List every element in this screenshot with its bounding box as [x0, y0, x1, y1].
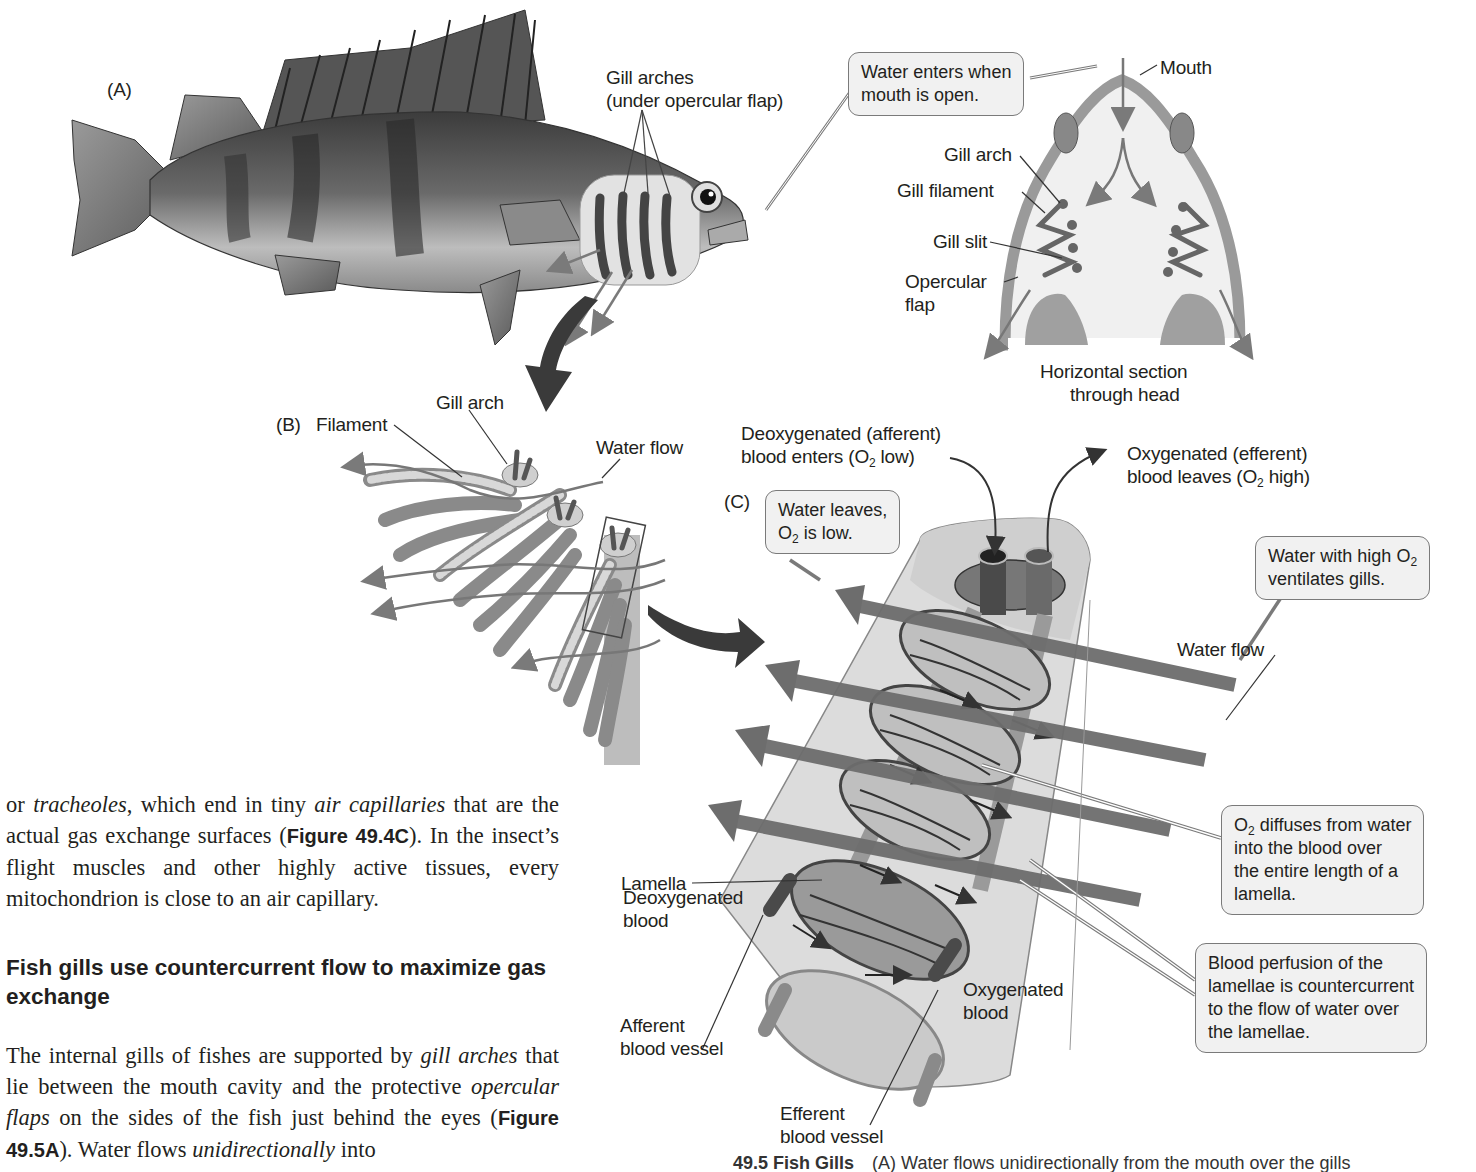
- water-high-line1-sub: 2: [1410, 555, 1417, 569]
- water-leaves-line1: Water leaves,: [778, 499, 887, 522]
- horizontal-section-label: Horizontal section through head: [1040, 360, 1187, 406]
- diffuse-line4: lamella.: [1234, 883, 1411, 906]
- oxy-line2-pre: blood leaves (O: [1127, 466, 1257, 487]
- paragraph-tracheoles: or tracheoles, which end in tiny air cap…: [6, 789, 559, 914]
- gill-arches-label-line2: (under opercular flap): [606, 89, 783, 112]
- perfusion-line2: lamellae is countercurrent: [1208, 975, 1414, 998]
- horizontal-section-line1: Horizontal section: [1040, 360, 1187, 383]
- callout-water-leaves: Water leaves, O2 is low.: [765, 490, 900, 554]
- paragraph-internal-gills: The internal gills of fishes are support…: [6, 1040, 559, 1166]
- para2-s1: The internal gills of fishes are support…: [6, 1043, 421, 1068]
- water-leaves-line2-sub: 2: [792, 532, 799, 546]
- oxygenated-blood-label: Oxygenated blood: [963, 978, 1063, 1024]
- perfusion-line1: Blood perfusion of the: [1208, 952, 1414, 975]
- deoxy-line2-pre: blood enters (O: [741, 446, 869, 467]
- water-flow-label-c: Water flow: [1177, 638, 1264, 661]
- horizontal-section-line2: through head: [1040, 383, 1187, 406]
- callout-o2-diffuses: O2 diffuses from water into the blood ov…: [1221, 805, 1424, 915]
- callout-water-enters: Water enters when mouth is open.: [848, 52, 1024, 116]
- opercular-flap-line1: Opercular: [905, 270, 987, 293]
- curved-arrow-b-to-c: [648, 605, 765, 668]
- efferent-line1: Efferent: [780, 1102, 883, 1125]
- gill-slit-label: Gill slit: [933, 230, 987, 253]
- diffuse-line1-post: diffuses from water: [1255, 815, 1412, 835]
- callout-blood-perfusion: Blood perfusion of the lamellae is count…: [1195, 943, 1427, 1053]
- filament-label: Filament: [316, 413, 387, 436]
- gill-filaments-illustration: [350, 410, 665, 765]
- para2-s5: into: [335, 1137, 376, 1162]
- callout-water-high-o2: Water with high O2 ventilates gills.: [1255, 536, 1430, 600]
- callout-water-enters-line1: Water enters when: [861, 61, 1011, 84]
- diffuse-line1-pre: O: [1234, 815, 1248, 835]
- perfusion-line4: the lamellae.: [1208, 1021, 1414, 1044]
- caption-text: (A) Water flows unidirectionally from th…: [872, 1153, 1351, 1172]
- para1-i2: air capillaries: [314, 792, 445, 817]
- diffuse-line3: the entire length of a: [1234, 860, 1411, 883]
- water-flow-label-b: Water flow: [596, 436, 683, 459]
- efferent-line2: blood vessel: [780, 1125, 883, 1148]
- section-heading: Fish gills use countercurrent flow to ma…: [6, 953, 566, 1011]
- water-leaves-line2: O2 is low.: [778, 522, 887, 545]
- water-leaves-line2-post: is low.: [799, 523, 853, 543]
- water-leaves-line2-pre: O: [778, 523, 792, 543]
- water-high-line1: Water with high O2: [1268, 545, 1417, 568]
- gill-arch-label-section: Gill arch: [944, 143, 1012, 166]
- para2-i3: unidirectionally: [192, 1137, 335, 1162]
- para1-i1: tracheoles: [33, 792, 127, 817]
- deoxy-line1: Deoxygenated (afferent): [741, 422, 941, 445]
- callout-water-enters-line2: mouth is open.: [861, 84, 1011, 107]
- panel-c-label: (C): [724, 490, 750, 513]
- oxy-line2: blood leaves (O2 high): [1127, 465, 1310, 488]
- water-high-line1-pre: Water with high O: [1268, 546, 1410, 566]
- opercular-flap-line2: flap: [905, 293, 987, 316]
- deoxy-line2-post: low): [875, 446, 914, 467]
- diffuse-line1: O2 diffuses from water: [1234, 814, 1411, 837]
- deoxygenated-blood-enters-label: Deoxygenated (afferent) blood enters (O2…: [741, 422, 941, 468]
- gill-arches-label-line1: Gill arches: [606, 66, 783, 89]
- panel-a-label: (A): [107, 78, 132, 101]
- caption-number: 49.5 Fish Gills: [733, 1153, 854, 1172]
- oxygenated-blood-line2: blood: [963, 1001, 1063, 1024]
- para1-s1: or: [6, 792, 33, 817]
- gill-arch-label-b: Gill arch: [436, 391, 504, 414]
- oxygenated-blood-leaves-label: Oxygenated (efferent) blood leaves (O2 h…: [1127, 442, 1310, 488]
- panel-b-label: (B): [276, 413, 301, 436]
- diffuse-line2: into the blood over: [1234, 837, 1411, 860]
- efferent-vessel-label: Efferent blood vessel: [780, 1102, 883, 1148]
- opercular-flap-label: Opercular flap: [905, 270, 987, 316]
- para2-s3: on the sides of the fish just behind the…: [50, 1105, 498, 1130]
- diffuse-line1-sub: 2: [1248, 824, 1255, 838]
- fish-illustration: [72, 10, 850, 345]
- figure-ref-49-4c[interactable]: Figure 49.4C: [287, 825, 409, 847]
- figure-caption: 49.5 Fish Gills(A) Water flows unidirect…: [733, 1153, 1351, 1172]
- gill-filament-label: Gill filament: [897, 179, 994, 202]
- deoxygenated-blood-line2: blood: [623, 909, 743, 932]
- deoxygenated-blood-label: Deoxygenated blood: [623, 886, 743, 932]
- para2-i1: gill arches: [421, 1043, 518, 1068]
- oxy-line2-post: high): [1264, 466, 1310, 487]
- afferent-vessel-label: Afferent blood vessel: [620, 1014, 723, 1060]
- afferent-line1: Afferent: [620, 1014, 723, 1037]
- oxygenated-blood-line1: Oxygenated: [963, 978, 1063, 1001]
- para2-s4: ). Water flows: [59, 1137, 192, 1162]
- head-section-illustration: [990, 58, 1248, 352]
- mouth-label: Mouth: [1160, 56, 1212, 79]
- perfusion-line3: to the flow of water over: [1208, 998, 1414, 1021]
- deoxygenated-blood-line1: Deoxygenated: [623, 886, 743, 909]
- gill-arches-label: Gill arches (under opercular flap): [606, 66, 783, 112]
- afferent-line2: blood vessel: [620, 1037, 723, 1060]
- water-high-line2: ventilates gills.: [1268, 568, 1417, 591]
- oxy-line1: Oxygenated (efferent): [1127, 442, 1310, 465]
- para1-s2: , which end in tiny: [127, 792, 314, 817]
- deoxy-line2: blood enters (O2 low): [741, 445, 941, 468]
